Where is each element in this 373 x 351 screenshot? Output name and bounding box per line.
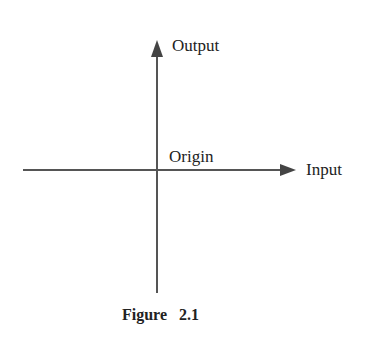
input-axis-label: Input xyxy=(306,161,342,178)
figure-caption: Figure 2.1 xyxy=(122,307,199,323)
output-arrowhead-icon xyxy=(151,40,163,57)
output-axis-label: Output xyxy=(172,37,219,54)
input-arrowhead-icon xyxy=(280,164,296,176)
figure-canvas: Output Origin Input Figure 2.1 xyxy=(0,0,373,351)
origin-label: Origin xyxy=(169,148,213,165)
